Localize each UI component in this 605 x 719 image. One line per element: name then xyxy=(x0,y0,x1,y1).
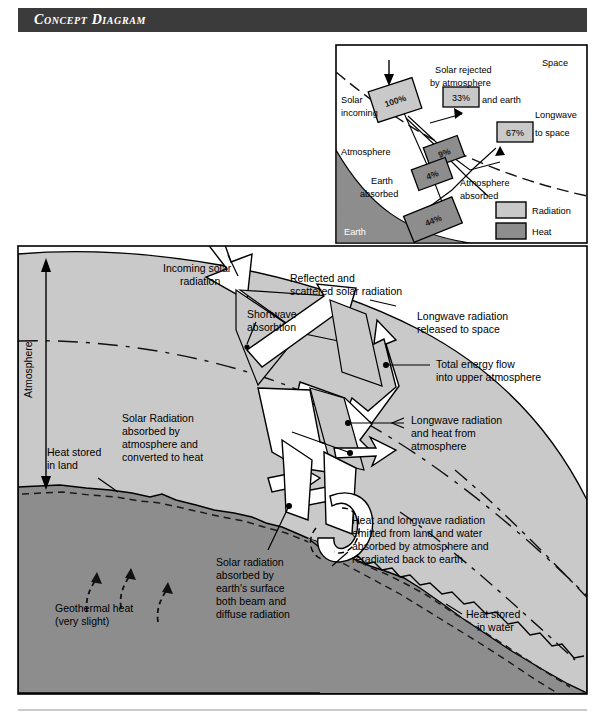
inset-label-space: Space xyxy=(542,58,568,68)
inset-label-atmosphere-absorbed-1: Atmosphere xyxy=(460,178,510,188)
label-shortwave-line1: Shortwave xyxy=(247,308,297,320)
inset-label-longwave-space-1: Longwave xyxy=(535,110,577,120)
sun-icon xyxy=(73,62,199,215)
concept-diagram-page: Concept Diagram xyxy=(0,0,605,719)
inset-value-33: 33% xyxy=(452,93,470,103)
label-solar-absorbed-atmos-line3: atmosphere and xyxy=(122,438,198,450)
inset-label-solar-rejected-3: and earth xyxy=(482,95,521,105)
inset-legend-swatch-radiation xyxy=(496,202,526,218)
label-solar-absorbed-atmos-line2: absorbed by xyxy=(122,425,181,437)
inset-legend-swatch-heat xyxy=(496,223,526,239)
label-solar-surface-line3: earth's surface xyxy=(216,582,285,594)
inset-label-solar-rejected-1: Solar rejected xyxy=(435,65,492,75)
inset-label-atmosphere: Atmosphere xyxy=(341,147,391,157)
inset-label-earth: Earth xyxy=(344,227,366,237)
label-longwave-heat-line3: atmosphere xyxy=(411,440,467,452)
label-heat-longwave-emitted-line2: emitted from land and water xyxy=(352,527,483,539)
inset-label-earth-absorbed-1: Earth xyxy=(371,176,393,186)
label-heat-longwave-emitted-line4: reradiated back to earth xyxy=(352,553,463,565)
inset-label-solar-incoming-1: Solar xyxy=(341,95,362,105)
label-incoming-solar-line2: radiation xyxy=(180,275,220,287)
label-heat-stored-land-line1: Heat stored xyxy=(47,446,101,458)
label-solar-surface-line5: diffuse radiation xyxy=(216,608,290,620)
inset-label-solar-incoming-2: incoming xyxy=(341,108,378,118)
inset-value-67: 67% xyxy=(506,128,524,138)
label-longwave-released-line1: Longwave radiation xyxy=(417,310,508,322)
label-heat-stored-water-line1: Heat stored xyxy=(466,608,520,620)
label-solar-surface-line4: both beam and xyxy=(216,595,286,607)
inset-diagram: 100% 33% 67% 9% 4% xyxy=(336,45,587,243)
inset-legend-label-heat: Heat xyxy=(532,227,552,237)
diagram-canvas: Incoming solar radiation Reflected and s… xyxy=(0,0,605,719)
inset-label-atmosphere-absorbed-2: absorbed xyxy=(460,191,498,201)
label-shortwave-line2: absorbtion xyxy=(247,321,296,333)
label-solar-surface-line2: absorbed by xyxy=(216,569,275,581)
label-total-energy-line2: into upper atmosphere xyxy=(436,371,541,383)
inset-label-earth-absorbed-2: absorbed xyxy=(360,189,398,199)
label-heat-longwave-emitted-line3: absorbed by atmosphere and xyxy=(352,540,489,552)
label-atmosphere-axis: Atmosphere xyxy=(22,341,34,398)
label-longwave-heat-line1: Longwave radiation xyxy=(411,414,502,426)
label-reflected-line2: scattered solar radiation xyxy=(290,285,402,297)
inset-label-longwave-space-2: to space xyxy=(535,128,570,138)
label-heat-stored-water-line2: in water xyxy=(477,621,514,633)
label-solar-absorbed-atmos-line1: Solar Radiation xyxy=(122,412,194,424)
inset-label-solar-rejected-2: by atmosphere xyxy=(430,78,491,88)
inset-legend-label-radiation: Radiation xyxy=(532,206,571,216)
label-incoming-solar-line1: Incoming solar xyxy=(163,262,232,274)
label-reflected-line1: Reflected and xyxy=(290,272,355,284)
label-geothermal-line1: Geothermal heat xyxy=(55,602,133,614)
label-total-energy-line1: Total energy flow xyxy=(436,358,515,370)
label-longwave-released-line2: released to space xyxy=(417,323,500,335)
label-solar-surface-line1: Solar radiation xyxy=(216,556,284,568)
label-solar-absorbed-atmos-line4: converted to heat xyxy=(122,451,203,463)
label-geothermal-line2: (very slight) xyxy=(55,615,109,627)
label-heat-longwave-emitted-line1: Heat and longwave radiation xyxy=(352,514,485,526)
label-heat-stored-land-line2: in land xyxy=(47,459,78,471)
label-longwave-heat-line2: and heat from xyxy=(411,427,476,439)
